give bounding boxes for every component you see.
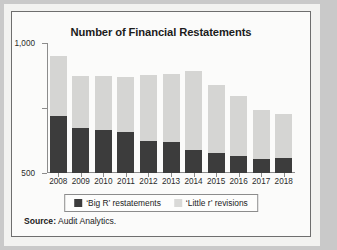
- source-note: Source: Audit Analytics.: [24, 216, 116, 226]
- bar-group[interactable]: [208, 85, 225, 173]
- x-tick-label: 2010: [94, 177, 112, 186]
- bar-segment-big-r[interactable]: [275, 158, 292, 173]
- y-tick-mark: 0: [42, 173, 47, 174]
- x-tick-label: 2015: [207, 177, 225, 186]
- y-axis-line: [47, 43, 48, 173]
- chart-figure-page: Number of Financial Restatements 05001,0…: [0, 0, 337, 250]
- bar-group[interactable]: [275, 114, 292, 173]
- big-r-swatch-icon: [74, 199, 82, 207]
- plot-area: 05001,000 200820092010201120122013201420…: [47, 43, 295, 173]
- bar-segment-big-r[interactable]: [95, 130, 112, 173]
- chart-title: Number of Financial Restatements: [12, 26, 310, 38]
- x-tick-label: 2012: [139, 177, 157, 186]
- x-tick-label: 2017: [252, 177, 270, 186]
- bar-group[interactable]: [140, 75, 157, 173]
- legend-item-big-r[interactable]: ‘Big R’ restatements: [74, 198, 161, 208]
- bar-segment-little-r[interactable]: [140, 75, 157, 141]
- bar-segment-little-r[interactable]: [72, 76, 89, 129]
- bar-group[interactable]: [230, 96, 247, 173]
- bar-segment-little-r[interactable]: [163, 74, 180, 142]
- x-tick-label: 2018: [275, 177, 293, 186]
- bar-segment-little-r[interactable]: [185, 71, 202, 150]
- bar-group[interactable]: [163, 74, 180, 173]
- bar-segment-big-r[interactable]: [72, 128, 89, 173]
- bar-segment-big-r[interactable]: [140, 141, 157, 174]
- bar-segment-big-r[interactable]: [230, 156, 247, 173]
- x-tick-label: 2014: [184, 177, 202, 186]
- bar-segment-little-r[interactable]: [275, 114, 292, 158]
- bar-segment-little-r[interactable]: [230, 96, 247, 156]
- chart-legend: ‘Big R’ restatements ‘Little r’ revision…: [64, 194, 258, 212]
- legend-label-little-r: ‘Little r’ revisions: [186, 198, 248, 208]
- little-r-swatch-icon: [174, 199, 182, 207]
- bar-segment-big-r[interactable]: [50, 116, 67, 173]
- bar-group[interactable]: [185, 71, 202, 173]
- bar-segment-little-r[interactable]: [50, 56, 67, 116]
- legend-item-little-r[interactable]: ‘Little r’ revisions: [174, 198, 248, 208]
- source-label: Source:: [24, 216, 56, 226]
- bar-segment-big-r[interactable]: [163, 142, 180, 173]
- bar-segment-big-r[interactable]: [253, 159, 270, 173]
- bar-segment-big-r[interactable]: [208, 153, 225, 173]
- bar-segment-big-r[interactable]: [117, 132, 134, 173]
- source-text: Audit Analytics.: [58, 216, 116, 226]
- x-tick-label: 2009: [72, 177, 90, 186]
- y-tick-label: 1,000: [15, 39, 36, 48]
- bar-segment-little-r[interactable]: [117, 77, 134, 132]
- y-tick-label: 500: [21, 169, 35, 178]
- y-tick-mark: 1,000: [42, 43, 47, 44]
- bar-segment-little-r[interactable]: [253, 110, 270, 159]
- bar-group[interactable]: [72, 76, 89, 174]
- x-tick-label: 2013: [162, 177, 180, 186]
- bar-group[interactable]: [253, 110, 270, 173]
- chart-figure-box: Number of Financial Restatements 05001,0…: [11, 11, 311, 237]
- bar-group[interactable]: [95, 76, 112, 173]
- bar-group[interactable]: [50, 56, 67, 173]
- x-tick-label: 2008: [49, 177, 67, 186]
- legend-label-big-r: ‘Big R’ restatements: [86, 198, 161, 208]
- bar-group[interactable]: [117, 77, 134, 173]
- bar-segment-big-r[interactable]: [185, 150, 202, 173]
- bar-segment-little-r[interactable]: [208, 85, 225, 153]
- bar-segment-little-r[interactable]: [95, 76, 112, 130]
- x-tick-label: 2011: [117, 177, 135, 186]
- y-tick-mark: 500: [42, 108, 47, 109]
- x-tick-label: 2016: [230, 177, 248, 186]
